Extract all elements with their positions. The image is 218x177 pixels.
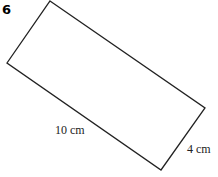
rectangle-shape xyxy=(7,1,205,170)
length-label: 10 cm xyxy=(55,123,85,137)
rectangle-diagram: 10 cm 4 cm xyxy=(0,0,218,177)
width-label: 4 cm xyxy=(187,142,211,156)
